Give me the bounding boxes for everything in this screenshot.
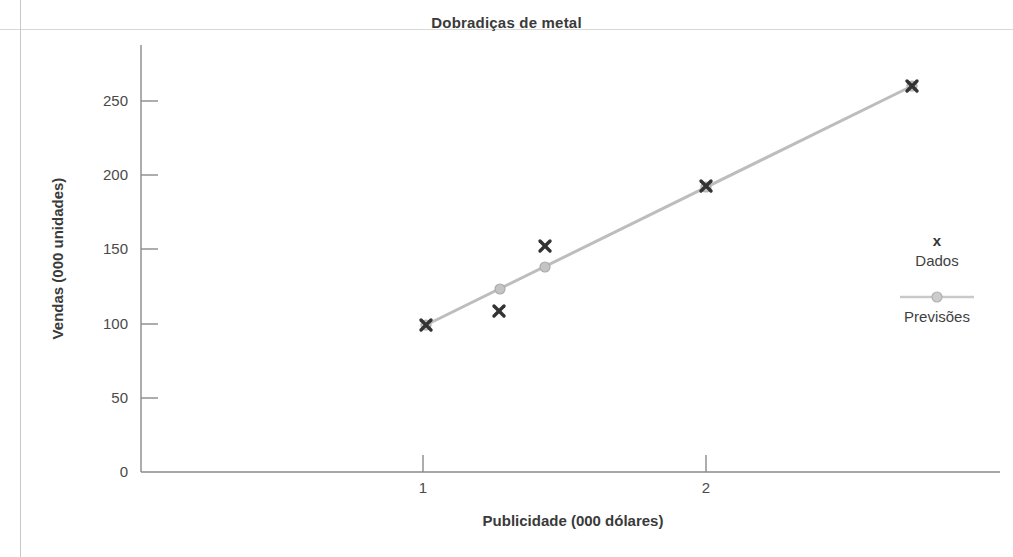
chart-legend: x Dados Previsões (862, 232, 1012, 344)
prediction-marker (540, 262, 550, 272)
x-axis-title: Publicidade (000 dólares) (292, 512, 854, 529)
data-marker (540, 241, 550, 251)
x-marker-icon: x (862, 232, 1012, 250)
prediction-marker (495, 284, 505, 294)
x-tick-label-1: 1 (403, 479, 443, 496)
legend-entry-previsoes: Previsões (862, 288, 1012, 328)
legend-label-dados: Dados (862, 250, 1012, 272)
y-tick-label-100: 100 (68, 315, 128, 332)
y-tick-label-200: 200 (68, 166, 128, 183)
y-tick-label-0: 0 (68, 463, 128, 480)
y-tick-label-50: 50 (68, 389, 128, 406)
data-marker (494, 306, 504, 316)
line-circle-marker-icon (862, 288, 1012, 306)
legend-entry-dados: x Dados (862, 232, 1012, 272)
y-tick-label-250: 250 (68, 92, 128, 109)
y-tick-label-150: 150 (68, 240, 128, 257)
chart-page: Dobradiças de metal (0, 0, 1013, 557)
x-tick-label-2: 2 (686, 479, 726, 496)
legend-label-previsoes: Previsões (862, 306, 1012, 328)
y-axis-title: Vendas (000 unidades) (49, 164, 66, 354)
